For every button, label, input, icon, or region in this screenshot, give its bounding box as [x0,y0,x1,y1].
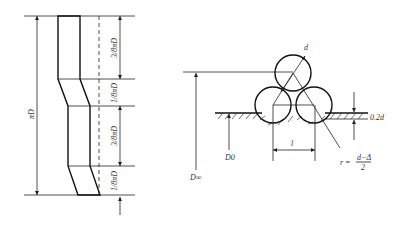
offset-label: 0.2d [370,113,385,122]
strip-outline [58,16,100,195]
segment-3-label: 3/8πD [110,126,119,147]
inner-diameter-label: D0 [224,153,235,162]
wire-stack-figure: D∞ d D0 l [183,43,385,182]
radius-denominator: 2 [361,163,365,172]
diagram-canvas: πD 3/8πD 1/8πD 3/8πD 1/8πD D∞ [0,0,407,228]
segment-1-label: 3/8πD [110,38,119,59]
segment-4-label: 1/8πD [110,171,119,191]
radius-numerator: d−Δ [357,153,371,162]
radius-leader-line [293,73,340,148]
pitch-label: l [291,139,294,148]
segment-2-label: 1/8πD [110,83,119,103]
total-length-label: πD [27,109,36,119]
strip-unfold-figure: πD 3/8πD 1/8πD 3/8πD 1/8πD [24,16,135,215]
radius-label-prefix: r = [340,158,351,167]
outer-diameter-label: D∞ [189,173,202,182]
diameter-label: d [304,43,309,52]
